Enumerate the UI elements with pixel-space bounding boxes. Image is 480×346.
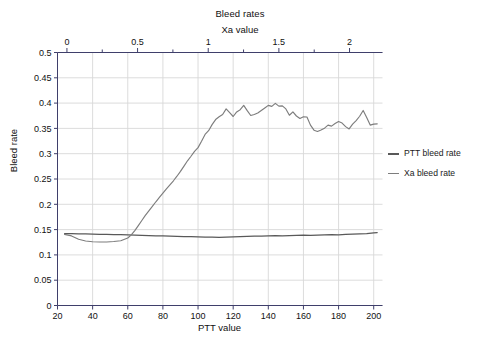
top-axis-title: Xa value (0, 24, 480, 35)
y-tick-label: 0.25 (34, 174, 52, 184)
y-tick-label: 0.5 (39, 48, 52, 58)
x-tick-label: 180 (331, 311, 346, 321)
x-tick-label: 20 (52, 311, 62, 321)
legend-item-xa[interactable]: Xa bleed rate (388, 168, 480, 179)
top-x-tick-label: 2 (347, 37, 352, 47)
x-tick-label: 60 (123, 311, 133, 321)
y-tick-label: 0.15 (34, 225, 52, 235)
series-line-xa-bleed-rate (65, 103, 378, 242)
y-tick-label: 0.1 (39, 250, 52, 260)
y-tick-label: 0.05 (34, 275, 52, 285)
x-tick-label: 100 (191, 311, 206, 321)
x-tick-label: 80 (158, 311, 168, 321)
series-line-ptt-bleed-rate (65, 233, 378, 238)
chart-legend: PTT bleed rate Xa bleed rate (388, 148, 480, 187)
x-tick-label: 160 (296, 311, 311, 321)
x-axis-title: PTT value (57, 322, 382, 333)
x-tick-label: 40 (88, 311, 98, 321)
chart-title: Bleed rates (0, 8, 480, 19)
x-tick-label: 140 (261, 311, 276, 321)
chart-container: Bleed rates Xa value 00.050.10.150.20.25… (0, 0, 480, 346)
legend-label-ptt: PTT bleed rate (404, 148, 461, 159)
y-tick-label: 0.35 (34, 124, 52, 134)
top-x-tick-label: 0 (64, 37, 69, 47)
legend-item-ptt[interactable]: PTT bleed rate (388, 148, 480, 159)
top-x-tick-label: 1.5 (273, 37, 286, 47)
legend-line-swatch-xa (388, 173, 399, 175)
x-tick-label: 200 (366, 311, 381, 321)
y-tick-label: 0.3 (39, 149, 52, 159)
y-tick-label: 0.2 (39, 200, 52, 210)
legend-line-swatch-ptt (388, 153, 399, 155)
legend-label-xa: Xa bleed rate (404, 168, 455, 179)
y-tick-label: 0 (46, 301, 51, 311)
y-tick-label: 0.45 (34, 73, 52, 83)
y-axis-title: Bleed rate (8, 111, 19, 191)
y-tick-label: 0.4 (39, 98, 52, 108)
top-x-tick-label: 1 (206, 37, 211, 47)
top-x-tick-label: 0.5 (131, 37, 144, 47)
x-tick-label: 120 (226, 311, 241, 321)
